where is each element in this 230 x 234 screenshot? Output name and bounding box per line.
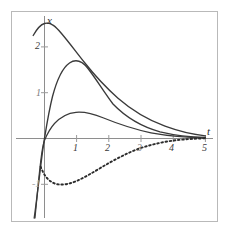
x-axis-label: t	[207, 126, 210, 137]
x-tick-3: 3	[137, 143, 142, 153]
y-tick-1: 1	[36, 88, 41, 98]
x-tick-2: 2	[105, 143, 110, 153]
y-tick-minus-1: -1	[32, 179, 40, 189]
curves-group	[33, 23, 205, 218]
x-tick-1: 1	[73, 143, 78, 153]
x-tick-4: 4	[169, 143, 174, 153]
x-tick-5: 5	[202, 143, 207, 153]
curve-dashed-negative	[41, 138, 206, 184]
y-axis-label: x	[47, 15, 52, 26]
y-tick-2: 2	[35, 41, 40, 51]
curve-low-flat	[35, 112, 205, 218]
plot-canvas	[0, 0, 230, 234]
figure-root: x t 1 2 3 4 5 1 2 -1	[0, 0, 230, 234]
axes-group	[16, 16, 213, 218]
